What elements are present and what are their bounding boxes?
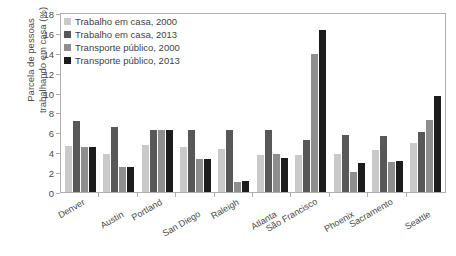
- bar: [358, 163, 365, 192]
- bar-group: [291, 14, 329, 192]
- bar: [242, 181, 249, 192]
- bar: [204, 159, 211, 192]
- x-label-cell: San Diego: [176, 196, 214, 254]
- x-label-cell: Seattle: [407, 196, 445, 254]
- x-label-cell: Sacramento: [368, 196, 406, 254]
- bar-group: [176, 14, 214, 192]
- bar: [150, 130, 157, 192]
- bar: [111, 127, 118, 192]
- bar: [311, 54, 318, 192]
- x-label-cell: Raleigh: [215, 196, 253, 254]
- bar: [265, 130, 272, 192]
- chart-legend: Trabalho em casa, 2000Trabalho em casa, …: [64, 16, 180, 66]
- x-axis-label: Denver: [57, 197, 87, 220]
- bar: [334, 154, 341, 192]
- bar-group: [368, 14, 406, 192]
- bar: [434, 96, 441, 192]
- legend-swatch-icon: [64, 57, 71, 64]
- x-axis-label: Seattle: [403, 209, 432, 232]
- bar: [188, 130, 195, 192]
- bar-chart: Parcela de pessoas trabalhando em casa (…: [0, 0, 456, 256]
- bar: [295, 155, 302, 192]
- bar-group: [407, 14, 445, 192]
- x-axis-labels: DenverAustinPortlandSan DiegoRaleighAtla…: [61, 196, 445, 254]
- x-label-cell: Denver: [61, 196, 99, 254]
- bar: [103, 154, 110, 192]
- bar-group: [215, 14, 253, 192]
- legend-swatch-icon: [64, 18, 71, 25]
- bar: [218, 149, 225, 192]
- y-axis-title: Parcela de pessoas trabalhando em casa (…: [25, 0, 49, 145]
- legend-label: Transporte público, 2013: [75, 55, 180, 66]
- bar: [127, 167, 134, 192]
- x-axis-label: Austin: [98, 209, 125, 230]
- bar: [196, 159, 203, 192]
- bar: [281, 158, 288, 192]
- legend-swatch-icon: [64, 31, 71, 38]
- legend-swatch-icon: [64, 44, 71, 51]
- bar: [380, 136, 387, 192]
- bar: [418, 132, 425, 192]
- bar: [273, 154, 280, 192]
- bar: [257, 155, 264, 192]
- bar: [166, 130, 173, 192]
- bar: [65, 146, 72, 192]
- bar: [350, 172, 357, 192]
- bar: [410, 143, 417, 192]
- y-tick-label: 4: [26, 148, 54, 159]
- bar-group: [330, 14, 368, 192]
- bar: [234, 182, 241, 192]
- legend-label: Transporte público, 2000: [75, 42, 180, 53]
- bar: [226, 130, 233, 192]
- bar: [426, 120, 433, 192]
- bar: [81, 147, 88, 192]
- bar: [73, 121, 80, 192]
- y-tick-label: 0: [26, 188, 54, 199]
- x-label-cell: Austin: [99, 196, 137, 254]
- bar: [372, 150, 379, 192]
- x-axis-label: Raleigh: [209, 197, 240, 221]
- y-tick-label: 2: [26, 168, 54, 179]
- bar: [342, 135, 349, 192]
- bar: [303, 140, 310, 192]
- bar: [319, 30, 326, 192]
- bar: [388, 162, 395, 192]
- legend-item: Transporte público, 2013: [64, 55, 180, 66]
- bar: [142, 145, 149, 192]
- legend-label: Trabalho em casa, 2013: [75, 29, 177, 40]
- legend-item: Trabalho em casa, 2013: [64, 29, 180, 40]
- bar: [89, 147, 96, 192]
- bar: [119, 167, 126, 192]
- bar-group: [253, 14, 291, 192]
- legend-label: Trabalho em casa, 2000: [75, 16, 177, 27]
- y-tick-mark: [56, 193, 60, 194]
- legend-item: Trabalho em casa, 2000: [64, 16, 180, 27]
- bar: [396, 161, 403, 192]
- bar: [158, 130, 165, 192]
- legend-item: Transporte público, 2000: [64, 42, 180, 53]
- bar: [180, 147, 187, 192]
